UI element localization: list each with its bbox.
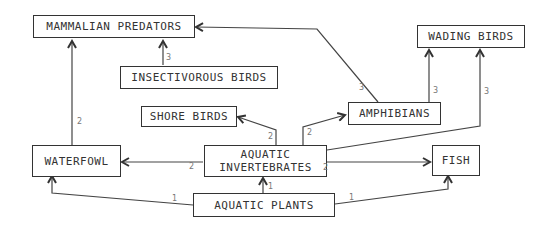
edge-invertebrates-wading-birds <box>327 50 480 150</box>
edge-amphibians-mammalian <box>196 27 378 102</box>
label-amphibians-mammalian: 3 <box>359 83 364 92</box>
node-fish: FISH <box>432 145 480 176</box>
label-insectivorous-mammalian: 3 <box>166 53 171 62</box>
label-invertebrates-amphibians: 2 <box>307 128 312 137</box>
label-plants-waterfowl: 1 <box>172 194 177 203</box>
label-waterfowl-mammalian: 2 <box>77 117 82 126</box>
label-amphibians-wading-birds: 3 <box>433 86 438 95</box>
label-invertebrates-fish: 2 <box>323 163 328 172</box>
node-insectivorous-birds: INSECTIVOROUS BIRDS <box>120 66 278 89</box>
node-aquatic-plants: AQUATIC PLANTS <box>193 193 335 217</box>
label-invertebrates-waterfowl: 2 <box>189 162 194 171</box>
node-amphibians: AMPHIBIANS <box>348 102 441 125</box>
node-mammalian-predators: MAMMALIAN PREDATORS <box>33 15 195 38</box>
node-waterfowl: WATERFOWL <box>32 145 121 177</box>
label-plants-fish: 1 <box>349 193 354 202</box>
label-invertebrates-shore-birds: 2 <box>268 132 273 141</box>
node-wading-birds: WADING BIRDS <box>417 25 525 48</box>
node-aquatic-invertebrates: AQUATIC INVERTEBRATES <box>204 145 327 177</box>
node-shore-birds: SHORE BIRDS <box>141 106 237 127</box>
label-plants-invertebrates: 1 <box>268 182 273 191</box>
label-invertebrates-wading-birds: 3 <box>484 87 489 96</box>
